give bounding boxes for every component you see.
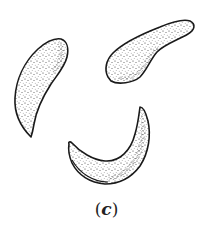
caption-label: c [101, 199, 111, 219]
caption-close-paren: ) [112, 199, 119, 219]
comma-cell-left [15, 39, 68, 137]
comma-cell-top-right [106, 20, 194, 83]
crescent-cell-bottom [69, 107, 150, 184]
figure-caption: (c) [0, 199, 213, 219]
